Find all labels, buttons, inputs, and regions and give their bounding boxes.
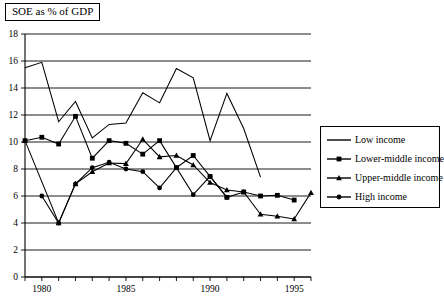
legend-item-3[interactable]: Upper-middle income (321, 168, 439, 187)
legend-marker-square-icon (326, 153, 352, 165)
y-axis-tick-label: 16 (9, 56, 19, 66)
legend-item-4[interactable]: High income (321, 187, 439, 206)
y-axis-tick-label: 0 (13, 272, 18, 282)
legend-item-label: Low income (352, 134, 405, 146)
chart-series-3 (22, 136, 314, 225)
x-axis-tick-label: 1985 (116, 284, 135, 294)
legend-item-label: High income (352, 191, 407, 203)
y-axis-tick-label: 8 (13, 164, 18, 174)
y-axis-tick-label: 14 (9, 83, 19, 93)
legend-marker-circle-icon (326, 191, 352, 203)
y-axis-tick-label: 18 (9, 29, 19, 39)
chart-legend: Low incomeLower-middle incomeUpper-middl… (320, 126, 440, 208)
chart-series-1 (25, 62, 261, 177)
y-axis-tick-label: 6 (13, 191, 18, 201)
y-axis-tick-label: 2 (13, 245, 18, 255)
legend-item-label: Lower-middle income (352, 153, 444, 165)
x-axis-tick-label: 1995 (285, 284, 304, 294)
legend-marker-triangle-icon (326, 172, 352, 184)
x-axis-tick-label: 1980 (32, 284, 51, 294)
legend-item-2[interactable]: Lower-middle income (321, 149, 439, 168)
y-axis-tick-label: 12 (9, 110, 19, 120)
y-axis-tick-label: 4 (13, 218, 18, 228)
legend-item-label: Upper-middle income (352, 172, 443, 184)
y-axis-tick-label: 10 (9, 137, 19, 147)
x-axis-tick-label: 1990 (201, 284, 220, 294)
chart-series-4 (39, 160, 229, 226)
legend-item-1[interactable]: Low income (321, 130, 439, 149)
legend-marker-none-icon (326, 134, 352, 146)
